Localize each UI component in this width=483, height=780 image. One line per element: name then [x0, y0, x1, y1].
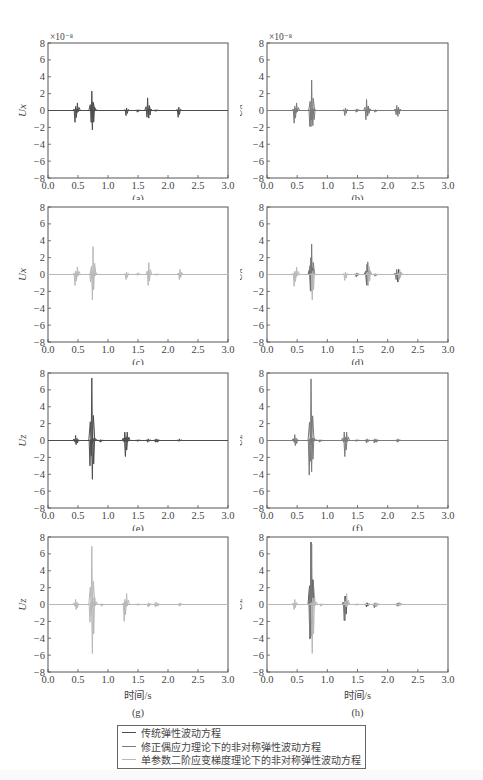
y-tick-label: −4	[34, 139, 46, 150]
chart-panel-f: 86420−2−4−6−80.00.51.01.52.02.53.0Uz(f)	[240, 363, 483, 531]
axis-exponent-label: ×10⁻⁸	[269, 32, 292, 42]
x-tick-label: 0.0	[260, 674, 273, 685]
x-tick-label: 3.0	[221, 510, 234, 521]
y-tick-label: 2	[40, 418, 45, 429]
x-tick-label: 1.5	[131, 510, 144, 521]
y-tick-label: −6	[253, 650, 264, 661]
x-tick-label: 1.5	[351, 180, 364, 191]
x-tick-label: 1.0	[101, 344, 114, 355]
y-tick-label: 0	[40, 105, 45, 116]
x-tick-label: 2.0	[381, 674, 394, 685]
y-tick-label: −2	[34, 452, 45, 463]
y-tick-label: 6	[259, 54, 264, 65]
x-tick-label: 2.0	[161, 674, 174, 685]
x-tick-label: 2.5	[191, 344, 204, 355]
y-tick-label: 4	[40, 565, 46, 576]
y-tick-label: −4	[34, 303, 46, 314]
data-series	[48, 91, 228, 130]
y-tick-label: 4	[259, 565, 265, 576]
y-tick-label: −2	[253, 452, 264, 463]
x-tick-label: 0.0	[260, 344, 273, 355]
x-tick-label: 1.5	[351, 510, 364, 521]
y-tick-label: −6	[34, 320, 45, 331]
legend-line-swatch	[122, 732, 136, 733]
y-tick-label: 6	[40, 218, 45, 229]
y-tick-label: 4	[259, 235, 265, 246]
chart-panel-c: 86420−2−4−6−80.00.51.01.52.02.53.0Ux(c)	[0, 197, 240, 365]
x-tick-label: 1.5	[351, 674, 364, 685]
y-tick-label: 6	[40, 384, 45, 395]
chart-svg: 86420−2−4−6−80.00.51.01.52.02.53.0×10⁻⁸U…	[240, 28, 483, 200]
y-tick-label: −4	[253, 303, 265, 314]
y-tick-label: −2	[34, 616, 45, 627]
y-tick-label: 0	[40, 269, 45, 280]
x-tick-label: 2.5	[411, 180, 424, 191]
y-axis-label: Ux	[16, 268, 28, 281]
subfigure-caption: (g)	[132, 707, 145, 719]
y-tick-label: −4	[253, 633, 265, 644]
y-tick-label: 8	[40, 202, 45, 213]
y-tick-label: −2	[34, 286, 45, 297]
x-tick-label: 3.0	[221, 344, 234, 355]
chart-panel-a: 86420−2−4−6−80.00.51.01.52.02.53.0×10⁻⁸U…	[0, 28, 240, 200]
y-axis-label: Uz	[240, 598, 244, 611]
x-tick-label: 2.0	[381, 510, 394, 521]
y-tick-label: −2	[34, 122, 45, 133]
x-tick-label: 3.0	[441, 674, 454, 685]
x-tick-label: 1.0	[321, 674, 334, 685]
x-tick-label: 0.5	[71, 674, 84, 685]
y-axis-label: Ux	[16, 104, 28, 117]
x-tick-label: 3.0	[221, 674, 234, 685]
legend-item-strain-gradient: 单参数二阶应变梯度理论下的非对称弹性波动方程	[118, 753, 365, 767]
x-tick-label: 3.0	[441, 180, 454, 191]
y-tick-label: 0	[259, 599, 264, 610]
y-tick-label: 8	[40, 532, 45, 543]
x-tick-label: 0.0	[41, 344, 54, 355]
y-tick-label: 8	[40, 38, 45, 49]
y-tick-label: −6	[34, 486, 45, 497]
y-tick-label: 0	[40, 435, 45, 446]
data-series	[267, 266, 448, 300]
x-tick-label: 1.0	[101, 180, 114, 191]
y-tick-label: 4	[40, 401, 46, 412]
chart-svg: 86420−2−4−6−80.00.51.01.52.02.53.0Uz(f)	[240, 363, 483, 531]
x-tick-label: 0.5	[291, 674, 304, 685]
chart-panel-h: 86420−2−4−6−80.00.51.01.52.02.53.0Uz时间/s…	[240, 527, 483, 723]
y-tick-label: 6	[40, 548, 45, 559]
x-tick-label: 0.5	[291, 180, 304, 191]
y-tick-label: 2	[40, 88, 45, 99]
legend-line-swatch	[122, 746, 136, 747]
x-tick-label: 1.0	[101, 674, 114, 685]
x-tick-label: 2.0	[381, 180, 394, 191]
y-tick-label: 0	[40, 599, 45, 610]
x-tick-label: 3.0	[441, 344, 454, 355]
chart-panel-g: 86420−2−4−6−80.00.51.01.52.02.53.0Uz时间/s…	[0, 527, 240, 723]
y-tick-label: 4	[40, 71, 46, 82]
x-tick-label: 2.0	[161, 180, 174, 191]
y-tick-label: −6	[253, 320, 264, 331]
y-axis-label: Uz	[240, 434, 244, 447]
chart-svg: 86420−2−4−6−80.00.51.01.52.02.53.0Uz(e)	[0, 363, 240, 531]
data-series	[267, 544, 448, 639]
y-axis-label: Ux	[240, 268, 244, 281]
y-tick-label: −6	[34, 650, 45, 661]
x-axis-label: 时间/s	[344, 689, 371, 701]
chart-svg: 86420−2−4−6−80.00.51.01.52.02.53.0Uz时间/s…	[240, 527, 483, 723]
x-tick-label: 2.5	[411, 674, 424, 685]
x-tick-label: 2.5	[191, 674, 204, 685]
y-tick-label: 8	[259, 38, 264, 49]
x-tick-label: 2.5	[191, 510, 204, 521]
data-series	[267, 594, 448, 654]
x-tick-label: 0.5	[291, 344, 304, 355]
x-tick-label: 0.5	[291, 510, 304, 521]
data-series	[48, 546, 228, 653]
subfigure-caption: (h)	[351, 707, 364, 719]
x-tick-label: 3.0	[441, 510, 454, 521]
y-tick-label: 2	[259, 418, 264, 429]
x-tick-label: 2.5	[411, 344, 424, 355]
legend-item-traditional: 传统弹性波动方程	[118, 726, 365, 740]
y-tick-label: −6	[253, 486, 264, 497]
legend-line-swatch	[122, 759, 136, 760]
legend: 传统弹性波动方程 修正偶应力理论下的非对称弹性波动方程 单参数二阶应变梯度理论下…	[117, 725, 366, 769]
y-tick-label: 0	[259, 269, 264, 280]
